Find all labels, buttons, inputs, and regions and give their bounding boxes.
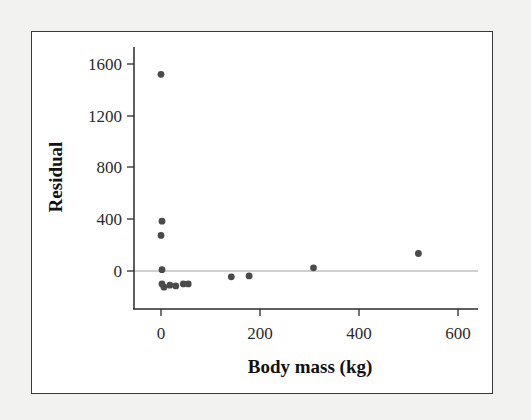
- data-point: [310, 264, 317, 271]
- data-point: [161, 284, 168, 291]
- data-point: [246, 273, 253, 280]
- data-point: [167, 282, 174, 289]
- x-axis-title: Body mass (kg): [248, 356, 373, 378]
- data-points: [158, 71, 422, 291]
- data-point: [159, 218, 166, 225]
- y-axis-title: Residual: [45, 142, 66, 213]
- y-axis: 1600 1200 800 400 0: [88, 47, 134, 309]
- data-point: [185, 281, 192, 288]
- x-axis: 0 200 400 600: [133, 309, 478, 343]
- data-point: [158, 232, 165, 239]
- y-tick-label: 1600: [88, 55, 122, 74]
- y-tick-label: 400: [97, 210, 123, 229]
- x-tick-label: 400: [346, 324, 372, 343]
- x-tick-label: 200: [247, 324, 273, 343]
- data-point: [415, 250, 422, 257]
- data-point: [158, 71, 165, 78]
- y-tick-label: 800: [97, 158, 123, 177]
- x-tick-label: 600: [445, 324, 471, 343]
- data-point: [159, 266, 166, 273]
- x-tick-label: 0: [157, 324, 166, 343]
- scatter-plot: 1600 1200 800 400 0 0 200 400 600 Body m…: [0, 0, 531, 420]
- data-point: [172, 283, 179, 290]
- y-tick-label: 0: [114, 262, 123, 281]
- data-point: [228, 273, 235, 280]
- y-tick-label: 1200: [88, 107, 122, 126]
